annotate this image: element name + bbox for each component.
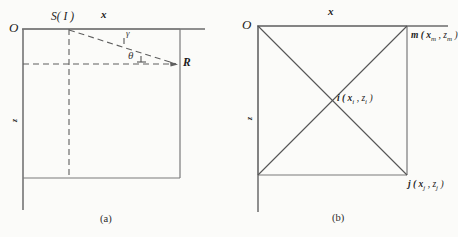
node-m-name: m ( x bbox=[411, 30, 431, 40]
ray-arrowhead-a bbox=[170, 62, 178, 67]
origin-label-a: O bbox=[9, 21, 18, 34]
x-axis-label-a: x bbox=[101, 9, 107, 20]
node-j-mid: , z bbox=[425, 179, 436, 189]
gamma-angle-label-a: γ bbox=[126, 29, 130, 38]
panel-a-drawing bbox=[0, 0, 229, 237]
z-axis-label-b: z bbox=[246, 117, 254, 120]
source-label-a: S( I ) bbox=[51, 11, 74, 23]
figure-container: O x z S( I ) R γ θ (a) O x z m ( xm , zm… bbox=[0, 0, 458, 237]
origin-label-b: O bbox=[242, 18, 251, 31]
caption-b: (b) bbox=[332, 213, 344, 224]
receiver-label-a: R bbox=[183, 57, 191, 69]
node-label-i-b: i ( xi , zi ) bbox=[337, 94, 373, 106]
panel-b: O x z m ( xm , zm ) i ( xi , zi ) j ( xj… bbox=[229, 0, 458, 237]
ray-dashed-a bbox=[69, 30, 176, 64]
z-axis-label-a: z bbox=[11, 119, 19, 122]
caption-a: (a) bbox=[100, 214, 112, 225]
theta-angle-label-a: θ bbox=[128, 50, 133, 61]
node-j-name: j ( x bbox=[408, 179, 423, 189]
node-m-mid: , z bbox=[436, 30, 447, 40]
x-axis-label-b: x bbox=[328, 6, 334, 17]
node-i-name: i ( x bbox=[337, 93, 352, 103]
node-i-mid: , z bbox=[354, 93, 365, 103]
node-j-end: ) bbox=[438, 179, 444, 189]
node-i-end: ) bbox=[367, 93, 373, 103]
panel-a: O x z S( I ) R γ θ (a) bbox=[0, 0, 229, 237]
node-label-j-b: j ( xj , zj ) bbox=[408, 180, 444, 192]
node-m-end: ) bbox=[452, 30, 458, 40]
node-label-m-b: m ( xm , zm ) bbox=[411, 31, 458, 43]
